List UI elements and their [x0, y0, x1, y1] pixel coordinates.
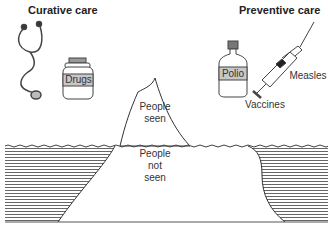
polio-label: Polio — [219, 68, 247, 80]
curative-care-title: Curative care — [28, 4, 98, 16]
syringe-icon — [253, 22, 314, 98]
preventive-care-title: Preventive care — [239, 4, 320, 16]
stethoscope-icon — [19, 22, 42, 100]
people-seen-label: People seen — [130, 101, 180, 125]
vaccines-label: Vaccines — [240, 99, 290, 111]
drugs-label: Drugs — [64, 74, 93, 86]
measles-label: Measles — [288, 70, 328, 82]
people-not-seen-label: People not seen — [130, 148, 180, 184]
